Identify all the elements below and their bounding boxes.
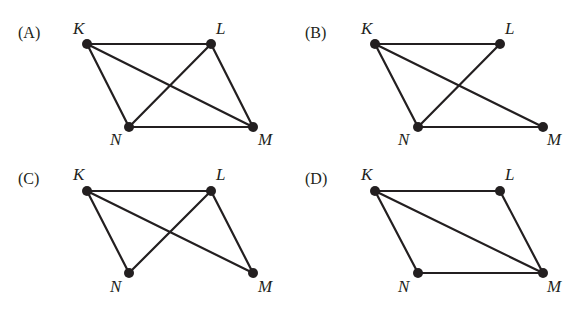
edge-kn bbox=[375, 191, 418, 273]
vertex-k bbox=[82, 39, 92, 49]
vertex-k bbox=[82, 186, 92, 196]
option-label: (A) bbox=[18, 24, 40, 42]
vertex-k bbox=[370, 186, 380, 196]
vertex-label-k: K bbox=[72, 19, 86, 38]
graph-option-c: (C)KLNM bbox=[18, 165, 273, 296]
edge-lm bbox=[211, 191, 253, 273]
vertex-label-m: M bbox=[257, 130, 273, 149]
vertex-k bbox=[370, 39, 380, 49]
vertex-l bbox=[206, 186, 216, 196]
option-label: (B) bbox=[305, 24, 326, 42]
vertex-label-k: K bbox=[360, 19, 374, 38]
edge-km bbox=[375, 191, 543, 273]
vertex-label-n: N bbox=[397, 130, 411, 149]
vertex-n bbox=[413, 268, 423, 278]
graph-option-b: (B)KLNM bbox=[305, 19, 562, 149]
edge-ln bbox=[418, 44, 500, 127]
vertex-label-k: K bbox=[360, 165, 374, 184]
vertex-n bbox=[413, 122, 423, 132]
edge-kn bbox=[87, 44, 129, 127]
vertex-m bbox=[248, 122, 258, 132]
vertex-label-l: L bbox=[504, 19, 514, 38]
vertex-label-n: N bbox=[109, 130, 123, 149]
vertex-l bbox=[495, 186, 505, 196]
edge-lm bbox=[500, 191, 543, 273]
vertex-label-m: M bbox=[546, 130, 562, 149]
edge-ln bbox=[129, 44, 211, 127]
option-label: (C) bbox=[18, 170, 39, 188]
vertex-label-l: L bbox=[504, 165, 514, 184]
vertex-label-n: N bbox=[397, 277, 411, 296]
vertex-label-l: L bbox=[215, 165, 225, 184]
vertex-label-k: K bbox=[72, 165, 86, 184]
edge-kn bbox=[87, 191, 129, 273]
graph-option-a: (A)KLNM bbox=[18, 19, 273, 149]
edge-lm bbox=[211, 44, 253, 127]
vertex-label-m: M bbox=[546, 277, 562, 296]
graph-options-figure: (A)KLNM(B)KLNM(C)KLNM(D)KLNM bbox=[0, 0, 582, 310]
vertex-l bbox=[206, 39, 216, 49]
vertex-m bbox=[248, 268, 258, 278]
vertex-label-m: M bbox=[257, 277, 273, 296]
option-label: (D) bbox=[305, 170, 327, 188]
edge-kn bbox=[375, 44, 418, 127]
graph-option-d: (D)KLNM bbox=[305, 165, 562, 296]
vertex-label-l: L bbox=[215, 19, 225, 38]
vertex-l bbox=[495, 39, 505, 49]
vertex-n bbox=[124, 268, 134, 278]
vertex-n bbox=[124, 122, 134, 132]
vertex-label-n: N bbox=[109, 277, 123, 296]
edge-ln bbox=[129, 191, 211, 273]
